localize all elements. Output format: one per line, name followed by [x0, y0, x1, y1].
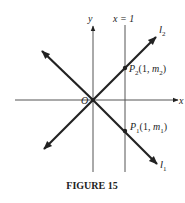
line-l2-extension [44, 100, 93, 149]
point-p2 [123, 66, 127, 70]
origin-point [91, 98, 95, 102]
line-l1-label: l1 [160, 158, 167, 173]
point-p1 [123, 129, 127, 133]
y-axis-label: y [87, 13, 93, 24]
point-p1-label: P1(1, m1) [129, 121, 167, 135]
line-l1-extension [42, 51, 93, 100]
figure-caption: FIGURE 15 [66, 180, 117, 191]
x-axis-label: x [178, 95, 184, 106]
figure-canvas: x y x = 1 O l2 l1 P2(1, m2) P1(1, m1) FI… [0, 0, 185, 203]
vertical-line-label: x = 1 [112, 13, 134, 24]
point-p2-label: P2(1, m2) [128, 63, 166, 77]
line-l2-label: l2 [159, 23, 166, 38]
